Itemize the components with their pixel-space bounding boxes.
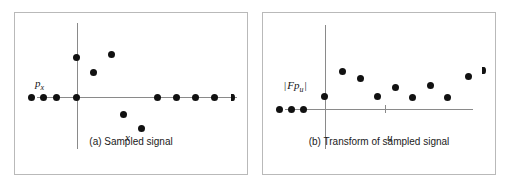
data-point xyxy=(192,94,199,101)
data-point xyxy=(321,93,328,100)
data-point xyxy=(357,75,364,82)
plot-area-a: px x xyxy=(15,13,247,174)
x-axis-b xyxy=(285,109,473,110)
data-point xyxy=(374,93,381,100)
data-point xyxy=(427,82,434,89)
caption-a: (a) Sampled signal xyxy=(15,136,247,147)
data-point xyxy=(300,106,307,113)
y-axis-a xyxy=(77,23,78,149)
data-point xyxy=(482,67,486,74)
figure-container: px x (a) Sampled signal |Fpu| u (b) Tran… xyxy=(0,0,525,193)
caption-b: (b) Transform of sampled signal xyxy=(263,136,495,147)
data-point xyxy=(211,94,218,101)
signal-label-px: px xyxy=(35,77,44,92)
axis-tick xyxy=(385,105,386,113)
data-point xyxy=(120,111,127,118)
panel-transform-signal: |Fpu| u (b) Transform of sampled signal xyxy=(262,12,496,175)
data-point xyxy=(40,94,47,101)
data-point xyxy=(231,94,235,101)
data-point xyxy=(409,94,416,101)
panel-sampled-signal: px x (a) Sampled signal xyxy=(14,12,248,175)
data-point xyxy=(28,94,35,101)
data-point xyxy=(73,54,80,61)
x-axis-a xyxy=(37,97,237,98)
data-point xyxy=(173,94,180,101)
data-point xyxy=(90,69,97,76)
data-point xyxy=(339,68,346,75)
data-point xyxy=(73,94,80,101)
data-point xyxy=(108,51,115,58)
y-axis-b xyxy=(325,25,326,149)
data-point xyxy=(288,106,295,113)
data-point xyxy=(53,94,60,101)
plot-area-b: |Fpu| u xyxy=(263,13,495,174)
data-point xyxy=(392,84,399,91)
data-point xyxy=(465,73,472,80)
data-point xyxy=(444,94,451,101)
data-point xyxy=(138,125,145,132)
signal-label-fpu: |Fpu| xyxy=(283,79,308,94)
data-point xyxy=(154,94,161,101)
data-point xyxy=(276,106,283,113)
